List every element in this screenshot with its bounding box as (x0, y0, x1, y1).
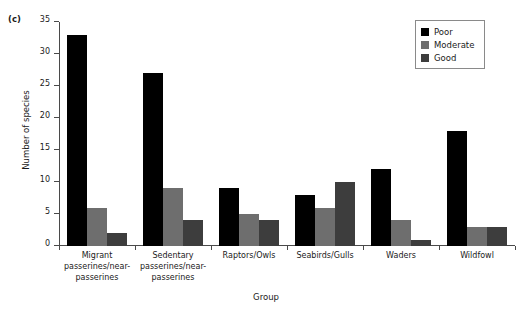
y-axis-tick-label: 20 (40, 111, 50, 120)
y-axis-tick-label: 30 (40, 47, 50, 56)
panel-label: (c) (8, 14, 21, 24)
legend-item: Moderate (421, 38, 474, 51)
bar (259, 220, 279, 246)
bar (487, 227, 507, 246)
legend-item: Good (421, 51, 474, 64)
y-axis-tick-label: 10 (40, 175, 50, 184)
legend-label: Good (434, 53, 456, 63)
bar (239, 214, 259, 246)
x-axis-category-label-line: passerines (129, 272, 217, 283)
bar (87, 208, 107, 246)
bar (447, 131, 467, 246)
bar (143, 73, 163, 246)
x-axis-category-label: Wildfowl (433, 250, 521, 261)
legend-swatch-icon (421, 41, 429, 49)
x-axis-category-label: Waders (357, 250, 445, 261)
bar (391, 220, 411, 246)
x-axis-category-label-line: passerines/near- (53, 261, 141, 272)
bar (107, 233, 127, 246)
bar-chart-figure: (c) Number of species 05101520253035 Mig… (0, 0, 532, 312)
x-axis-category-label: Migrantpasserines/near-passerines (53, 250, 141, 283)
y-axis-tick-label: 25 (40, 79, 50, 88)
bar (67, 35, 87, 246)
x-axis-category-label: Seabirds/Gulls (281, 250, 369, 261)
bar (295, 195, 315, 246)
x-axis-category-label-line: passerines/near- (129, 261, 217, 272)
y-axis-title: Number of species (21, 60, 31, 200)
bar (467, 227, 487, 246)
x-axis-category-label-line: Raptors/Owls (205, 250, 293, 261)
x-axis-title: Group (0, 292, 532, 302)
legend-label: Moderate (434, 40, 474, 50)
y-axis-tick-label: 35 (40, 15, 50, 24)
bar-group (295, 22, 355, 246)
x-axis-category-label-line: Waders (357, 250, 445, 261)
y-axis-tick-label: 0 (45, 239, 50, 248)
bar (371, 169, 391, 246)
x-axis-category-label-line: Sedentary (129, 250, 217, 261)
legend-label: Poor (434, 27, 453, 37)
bar (163, 188, 183, 246)
x-axis-category-labels: Migrantpasserines/near-passerinesSedenta… (59, 250, 515, 290)
bar-group (67, 22, 127, 246)
bar-group (143, 22, 203, 246)
bar (335, 182, 355, 246)
x-axis-category-label: Raptors/Owls (205, 250, 293, 261)
bar-group (219, 22, 279, 246)
x-axis-category-label-line: passerines (53, 272, 141, 283)
bar (183, 220, 203, 246)
x-axis-category-label-line: Seabirds/Gulls (281, 250, 369, 261)
legend-item: Poor (421, 25, 474, 38)
bar (219, 188, 239, 246)
x-axis-category-label: Sedentarypasserines/near-passerines (129, 250, 217, 283)
bar (411, 240, 431, 246)
y-axis-tick-label: 5 (45, 207, 50, 216)
legend-swatch-icon (421, 28, 429, 36)
x-axis-category-label-line: Wildfowl (433, 250, 521, 261)
x-axis-category-label-line: Migrant (53, 250, 141, 261)
legend: PoorModerateGood (415, 20, 485, 69)
y-axis-tick-label: 15 (40, 143, 50, 152)
bar (315, 208, 335, 246)
legend-swatch-icon (421, 54, 429, 62)
